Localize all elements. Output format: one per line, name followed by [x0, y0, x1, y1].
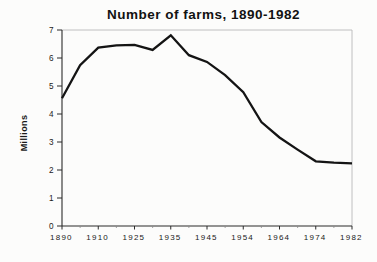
x-tick-label: 1910 — [86, 233, 109, 242]
x-tick-label: 1925 — [123, 233, 146, 242]
x-tick-label: 1964 — [268, 233, 291, 242]
y-tick-label: 3 — [49, 138, 54, 147]
x-tick-label: 1954 — [231, 233, 254, 242]
x-tick-label: 1890 — [50, 233, 73, 242]
y-tick-label: 0 — [49, 222, 54, 231]
y-tick-label: 7 — [49, 26, 54, 35]
x-tick-label: 1935 — [159, 233, 182, 242]
y-tick-label: 4 — [49, 110, 54, 119]
y-tick-label: 5 — [49, 82, 54, 91]
farms-line-chart: 0123456718901910192519351945195419641974… — [0, 0, 377, 262]
x-tick-label: 1982 — [340, 233, 363, 242]
x-tick-label: 1945 — [195, 233, 218, 242]
chart-canvas: Number of farms, 1890-1982 Millions 0123… — [0, 0, 377, 262]
farms-series-line — [62, 35, 352, 163]
x-tick-label: 1974 — [304, 233, 327, 242]
y-tick-label: 2 — [49, 166, 54, 175]
plot-frame — [62, 30, 352, 226]
y-tick-label: 6 — [49, 54, 54, 63]
y-tick-label: 1 — [49, 194, 54, 203]
